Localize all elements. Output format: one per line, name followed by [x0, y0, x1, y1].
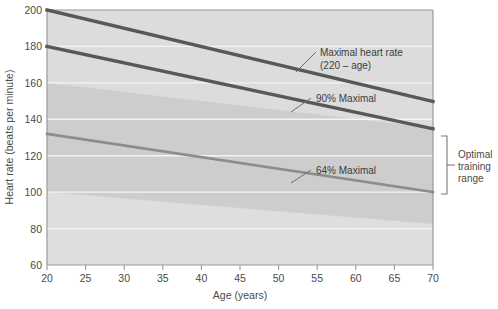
- x-tick-35: 35: [157, 272, 169, 284]
- x-tick-45: 45: [234, 272, 246, 284]
- label-64-percent-maximal: 64% Maximal: [316, 165, 376, 176]
- x-tick-70: 70: [427, 272, 439, 284]
- chart-figure: Maximal heart rate (220 – age) 90% Maxim…: [0, 0, 498, 309]
- x-tick-60: 60: [350, 272, 362, 284]
- bracket-label-line3: range: [458, 173, 484, 184]
- bracket-label-line1: Optimal: [458, 149, 492, 160]
- label-maximal-heart-rate-line2: (220 – age): [320, 60, 371, 71]
- x-tick-20: 20: [41, 272, 53, 284]
- x-tick-65: 65: [389, 272, 401, 284]
- label-90-percent-maximal: 90% Maximal: [316, 93, 376, 104]
- x-tick-40: 40: [196, 272, 208, 284]
- y-tick-80: 80: [30, 223, 42, 235]
- y-axis-title: Heart rate (beats per minute): [3, 70, 15, 205]
- y-tick-160: 160: [24, 77, 42, 89]
- y-tick-180: 180: [24, 40, 42, 52]
- x-tick-30: 30: [118, 272, 130, 284]
- x-tick-50: 50: [273, 272, 285, 284]
- y-tick-100: 100: [24, 186, 42, 198]
- y-tick-140: 140: [24, 113, 42, 125]
- y-tick-60: 60: [30, 259, 42, 271]
- y-tick-200: 200: [24, 4, 42, 16]
- label-maximal-heart-rate-line1: Maximal heart rate: [320, 47, 403, 58]
- y-tick-120: 120: [24, 150, 42, 162]
- bracket-label-line2: training: [458, 161, 491, 172]
- x-axis-title: Age (years): [213, 289, 267, 301]
- x-tick-25: 25: [80, 272, 92, 284]
- x-tick-55: 55: [311, 272, 323, 284]
- heart-rate-training-zones-chart: Maximal heart rate (220 – age) 90% Maxim…: [0, 0, 498, 309]
